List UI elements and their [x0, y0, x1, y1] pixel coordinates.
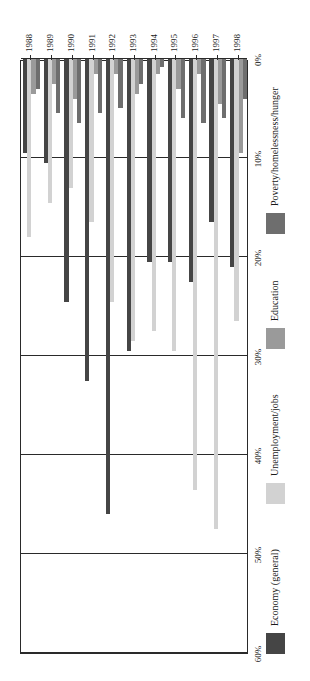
year-axis-label: 1996 — [191, 12, 200, 52]
bar — [152, 59, 156, 331]
bar — [98, 59, 102, 113]
year-bar-group — [62, 61, 83, 653]
legend-label: Economy (general) — [270, 549, 280, 626]
plot-area — [20, 60, 248, 654]
year-tick-mark — [93, 55, 94, 60]
bar — [181, 59, 185, 118]
legend-label: Education — [270, 280, 280, 321]
year-axis-label: 1993 — [129, 12, 138, 52]
year-tick-mark — [134, 55, 135, 60]
legend-label: Poverty/homelessness/hunger — [270, 87, 280, 206]
bar — [243, 59, 247, 99]
year-bar-group — [83, 61, 104, 653]
bar — [118, 59, 122, 109]
year-tick-mark — [217, 55, 218, 60]
legend-entry: Poverty/homelessness/hunger — [258, 87, 292, 234]
legend-swatch — [266, 328, 285, 349]
year-axis-label: 1994 — [150, 12, 159, 52]
year-axis-label: 1998 — [233, 12, 242, 52]
year-bar-group — [104, 61, 125, 653]
bar — [193, 59, 197, 490]
year-tick-mark — [113, 55, 114, 60]
bar — [201, 59, 205, 123]
bar — [139, 59, 143, 84]
bar — [214, 59, 218, 529]
year-bar-group — [42, 61, 63, 653]
year-axis-label: 1988 — [25, 12, 34, 52]
year-axis-label: 1995 — [170, 12, 179, 52]
year-axis-label: 1992 — [108, 12, 117, 52]
bar — [36, 59, 40, 89]
year-bar-group — [208, 61, 229, 653]
year-tick-mark — [175, 55, 176, 60]
year-tick-mark — [238, 55, 239, 60]
year-tick-mark — [155, 55, 156, 60]
year-bar-group — [187, 61, 208, 653]
year-bar-group — [228, 61, 249, 653]
year-axis-label: 1989 — [46, 12, 55, 52]
rotated-figure-stage: 1988198919901991199219931994199519961997… — [0, 0, 310, 681]
legend-swatch — [266, 213, 285, 234]
legend-entry: Education — [258, 280, 292, 349]
bar — [89, 59, 93, 222]
year-tick-mark — [196, 55, 197, 60]
year-bar-group — [125, 61, 146, 653]
bar — [222, 59, 226, 118]
bar — [110, 59, 114, 302]
year-tick-mark — [51, 55, 52, 60]
bar — [131, 59, 135, 341]
year-bar-group — [166, 61, 187, 653]
year-tick-mark — [72, 55, 73, 60]
bar — [160, 59, 164, 67]
year-bar-group — [21, 61, 42, 653]
chart-legend: Economy (general)Unemployment/jobsEducat… — [258, 60, 300, 654]
year-axis-label: 1997 — [212, 12, 221, 52]
bar — [77, 59, 81, 123]
year-axis-label: 1990 — [67, 12, 76, 52]
legend-label: Unemployment/jobs — [270, 394, 280, 476]
legend-swatch — [266, 483, 285, 504]
bar-chart-figure: 1988198919901991199219931994199519961997… — [0, 0, 310, 681]
year-bar-group — [145, 61, 166, 653]
year-tick-mark — [30, 55, 31, 60]
bar — [56, 59, 60, 113]
legend-entry: Economy (general) — [258, 549, 292, 654]
legend-swatch — [266, 633, 285, 654]
bar — [172, 59, 176, 351]
legend-entry: Unemployment/jobs — [258, 394, 292, 504]
year-axis-label: 1991 — [88, 12, 97, 52]
